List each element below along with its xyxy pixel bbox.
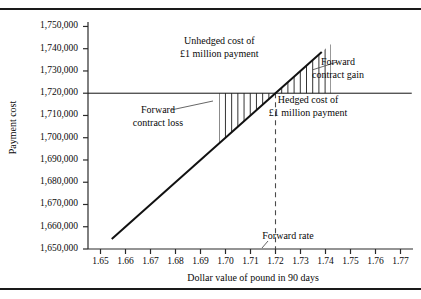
y-axis [83, 22, 88, 249]
y-axis-tick-label: 1,690,000 [20, 154, 78, 164]
annotation-line: Forward rate [233, 230, 343, 243]
annotation-line: contract gain [283, 69, 393, 82]
annotation-line: £1 million payment [253, 107, 363, 120]
annotation-forward-contract-gain: Forwardcontract gain [283, 56, 393, 81]
x-axis-title: Dollar value of pound in 90 days [88, 272, 418, 283]
annotation-line: £1 million payment [164, 48, 274, 61]
y-axis-tick-label: 1,750,000 [20, 20, 78, 30]
annotation-line: contract loss [103, 117, 213, 130]
annotation-line: Forward [103, 104, 213, 117]
y-axis-tick-label: 1,650,000 [20, 243, 78, 253]
annotation-line: Hedged cost of [253, 94, 363, 107]
y-axis-tick-label: 1,680,000 [20, 176, 78, 186]
annotation-forward-rate: Forward rate [233, 230, 343, 243]
annotation-forward-contract-loss: Forwardcontract loss [103, 104, 213, 129]
y-axis-tick-label: 1,660,000 [20, 221, 78, 231]
annotation-hedged-cost: Hedged cost of£1 million payment [253, 94, 363, 119]
x-axis-tick-label: 1.77 [384, 256, 418, 266]
annotation-line: Unhedged cost of [164, 35, 274, 48]
annotation-line: Forward [283, 56, 393, 69]
y-axis-tick-label: 1,730,000 [20, 65, 78, 75]
y-axis-tick-label: 1,740,000 [20, 43, 78, 53]
figure-container: Payment cost Dollar value of pound in 90… [0, 0, 421, 299]
x-axis [88, 249, 413, 254]
annotation-unhedged-cost: Unhedged cost of£1 million payment [164, 35, 274, 60]
y-axis-tick-label: 1,670,000 [20, 198, 78, 208]
annotation-leader-lines [171, 62, 337, 248]
y-axis-tick-label: 1,700,000 [20, 132, 78, 142]
y-axis-tick-label: 1,710,000 [20, 109, 78, 119]
y-axis-title: Payment cost [7, 78, 18, 178]
y-axis-tick-label: 1,720,000 [20, 87, 78, 97]
